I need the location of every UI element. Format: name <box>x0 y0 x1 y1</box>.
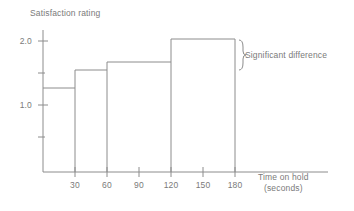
x-axis-title-main: Time on hold <box>258 172 309 183</box>
significant-difference-label: Significant difference <box>245 50 327 60</box>
x-axis-title-units: (seconds) <box>258 183 309 194</box>
x-tick-label-60: 60 <box>95 180 119 190</box>
bar-120-180 <box>171 39 235 172</box>
x-axis-title: Time on hold (seconds) <box>258 172 309 193</box>
bar-30-60 <box>75 70 107 172</box>
y-tick-label-1-0: 1.0 <box>10 100 32 110</box>
bar-60-120 <box>107 62 171 172</box>
x-tick-label-120: 120 <box>159 180 183 190</box>
y-tick-label-2-0: 2.0 <box>10 36 32 46</box>
bar-0-30 <box>43 88 75 172</box>
x-tick-label-180: 180 <box>223 180 247 190</box>
x-tick-label-90: 90 <box>127 180 151 190</box>
x-tick-label-150: 150 <box>191 180 215 190</box>
satisfaction-rating-chart: Satisfaction rating 2.0 <box>0 0 354 211</box>
x-tick-label-30: 30 <box>63 180 87 190</box>
